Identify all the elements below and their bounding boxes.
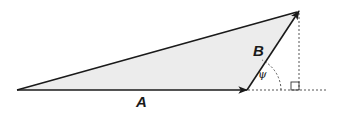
label-a: A — [135, 93, 147, 110]
right-angle-marker — [291, 82, 299, 90]
label-b: B — [253, 42, 264, 59]
label-psi: ψ — [258, 68, 267, 81]
vector-triangle-diagram: A B ψ — [0, 0, 338, 113]
